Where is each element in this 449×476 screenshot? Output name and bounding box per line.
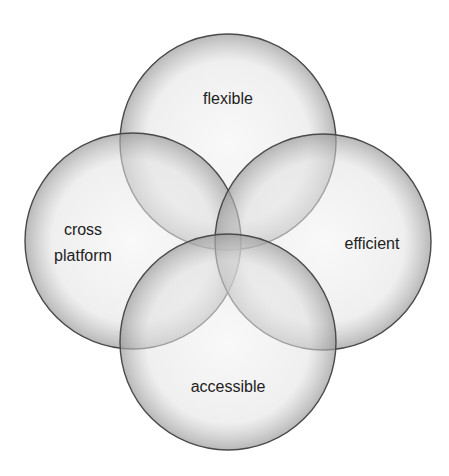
circle-accessible: [120, 234, 336, 450]
label-cross-platform-line2: platform: [54, 247, 112, 264]
label-cross-platform-line1: cross: [64, 221, 102, 238]
label-accessible: accessible: [191, 378, 266, 395]
label-flexible: flexible: [203, 90, 253, 107]
label-efficient: efficient: [345, 235, 400, 252]
venn-diagram: flexible cross platform efficient access…: [0, 0, 449, 476]
